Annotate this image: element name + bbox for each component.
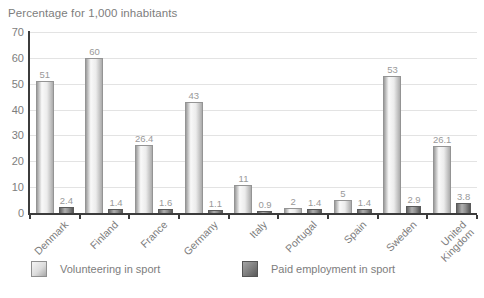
value-label-spain-dark: 1.4 <box>358 197 371 208</box>
paid-employment-in-sport-bar-finland: 1.4 <box>108 209 123 213</box>
x-label-united-kingdom: UnitedKingdom <box>431 219 475 263</box>
y-tick-label-60: 60 <box>12 52 24 64</box>
volunteering-in-sport-bar-germany: 43 <box>185 102 203 213</box>
value-label-portugal-light: 2 <box>291 196 296 207</box>
y-tick-label-70: 70 <box>12 26 24 38</box>
value-label-france-light: 26.4 <box>135 133 154 144</box>
bar-group-germany: 431.1 <box>179 32 229 213</box>
x-label-spain: Spain <box>342 219 368 245</box>
y-tick-label-20: 20 <box>12 155 24 167</box>
volunteering-in-sport-bar-france: 26.4 <box>135 145 153 213</box>
x-label-finland: Finland <box>88 219 120 251</box>
volunteering-swatch-icon <box>31 261 47 277</box>
x-label-line: Spain <box>342 219 368 245</box>
paid-employment-in-sport-bar-france: 1.6 <box>158 209 173 213</box>
value-label-sweden-light: 53 <box>387 64 398 75</box>
paid-employment-in-sport-bar-portugal: 1.4 <box>307 209 322 213</box>
volunteering-in-sport-bar-italy: 11 <box>234 185 252 213</box>
x-label-line: Portugal <box>284 219 319 254</box>
y-tick-label-50: 50 <box>12 78 24 90</box>
value-label-italy-dark: 0.9 <box>258 199 271 210</box>
x-label-italy: Italy <box>248 219 269 240</box>
value-label-finland-light: 60 <box>89 46 100 57</box>
volunteering-in-sport-bar-portugal: 2 <box>284 208 302 213</box>
value-label-united-kingdom-light: 26.1 <box>433 134 452 145</box>
legend-label-volunteering: Volunteering in sport <box>60 263 160 275</box>
value-label-germany-light: 43 <box>189 90 200 101</box>
bar-group-denmark: 512.4 <box>30 32 80 213</box>
bar-group-portugal: 21.4 <box>278 32 328 213</box>
y-tick-label-30: 30 <box>12 129 24 141</box>
value-label-denmark-light: 51 <box>40 69 51 80</box>
paid-employment-swatch-icon <box>242 261 258 277</box>
bar-chart-figure: Percentage for 1,000 inhabitants 0102030… <box>0 0 484 298</box>
value-label-france-dark: 1.6 <box>159 197 172 208</box>
x-label-denmark: Denmark <box>33 219 71 257</box>
x-label-line: Italy <box>248 219 269 240</box>
bar-group-italy: 110.9 <box>229 32 279 213</box>
volunteering-in-sport-bar-united-kingdom: 26.1 <box>433 146 451 213</box>
value-label-united-kingdom-dark: 3.8 <box>457 191 470 202</box>
paid-employment-in-sport-bar-united-kingdom: 3.8 <box>456 203 471 213</box>
bar-group-france: 26.41.6 <box>129 32 179 213</box>
value-label-spain-light: 5 <box>340 188 345 199</box>
legend-item-volunteering: Volunteering in sport <box>31 261 160 277</box>
y-tick-label-10: 10 <box>12 181 24 193</box>
legend-item-paid-employment: Paid employment in sport <box>242 261 395 277</box>
bar-group-sweden: 532.9 <box>378 32 428 213</box>
y-tick-label-0: 0 <box>18 207 24 219</box>
x-label-sweden: Sweden <box>384 219 418 253</box>
value-label-finland-dark: 1.4 <box>109 197 122 208</box>
x-label-france: France <box>139 219 170 250</box>
paid-employment-in-sport-bar-germany: 1.1 <box>208 210 223 213</box>
value-label-sweden-dark: 2.9 <box>407 194 420 205</box>
paid-employment-in-sport-bar-spain: 1.4 <box>357 209 372 213</box>
value-label-germany-dark: 1.1 <box>209 198 222 209</box>
value-label-portugal-dark: 1.4 <box>308 197 321 208</box>
x-label-portugal: Portugal <box>284 219 319 254</box>
x-label-line: France <box>139 219 170 250</box>
value-label-italy-light: 11 <box>239 173 249 184</box>
x-axis-labels: DenmarkFinlandFranceGermanyItalyPortugal… <box>30 219 477 267</box>
paid-employment-in-sport-bar-sweden: 2.9 <box>406 206 421 213</box>
x-label-line: Finland <box>88 219 120 251</box>
volunteering-in-sport-bar-denmark: 51 <box>36 81 54 213</box>
legend-label-paid-employment: Paid employment in sport <box>271 263 395 275</box>
volunteering-in-sport-bar-finland: 60 <box>85 58 103 213</box>
x-axis-baseline <box>28 213 477 215</box>
y-tick-label-40: 40 <box>12 104 24 116</box>
bar-group-finland: 601.4 <box>80 32 130 213</box>
y-axis-labels: 010203040506070 <box>0 32 24 213</box>
volunteering-in-sport-bar-spain: 5 <box>334 200 352 213</box>
plot-area: 512.4601.426.41.6431.1110.921.451.4532.9… <box>30 32 477 213</box>
value-label-denmark-dark: 2.4 <box>60 195 73 206</box>
paid-employment-in-sport-bar-italy: 0.9 <box>257 211 272 213</box>
x-label-germany: Germany <box>181 219 219 257</box>
paid-employment-in-sport-bar-denmark: 2.4 <box>59 207 74 213</box>
chart-title: Percentage for 1,000 inhabitants <box>8 7 177 19</box>
bar-group-spain: 51.4 <box>328 32 378 213</box>
x-label-line: Germany <box>181 219 219 257</box>
volunteering-in-sport-bar-sweden: 53 <box>383 76 401 213</box>
x-label-line: Denmark <box>33 219 71 257</box>
x-label-line: Sweden <box>384 219 418 253</box>
bar-group-united-kingdom: 26.13.8 <box>427 32 477 213</box>
